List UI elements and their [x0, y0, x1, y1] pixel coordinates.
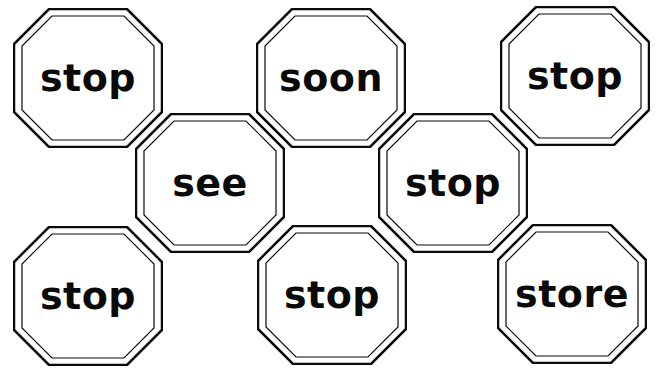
sign-word: store — [497, 224, 647, 364]
sign-stop-5: stop — [257, 225, 407, 365]
sign-store: store — [497, 224, 647, 364]
sign-word: stop — [13, 226, 163, 366]
sign-stop-4: stop — [13, 226, 163, 366]
sign-word: stop — [257, 225, 407, 365]
